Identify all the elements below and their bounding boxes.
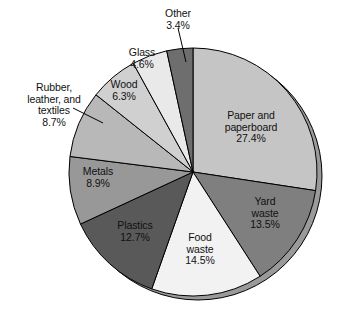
slice-label-other-name: Other xyxy=(141,8,215,20)
pie-chart: Other 3.4% Glass 4.6% Wood 6.3% Rubber, … xyxy=(0,0,343,322)
slice-label-food-value: 14.5% xyxy=(172,255,228,267)
slice-label-other-value: 3.4% xyxy=(141,20,215,32)
pie-chart-canvas xyxy=(0,0,343,322)
slice-label-plastics: Plastics 12.7% xyxy=(101,220,169,243)
slice-label-metals-value: 8.9% xyxy=(68,178,128,190)
slice-label-rubber-line1: Rubber, xyxy=(6,82,102,94)
slice-label-rubber: Rubber, leather, and textiles 8.7% xyxy=(6,82,102,128)
slice-label-paper-value: 27.4% xyxy=(209,133,293,145)
slice-label-rubber-value: 8.7% xyxy=(6,117,102,129)
slice-label-paper: Paper and paperboard 27.4% xyxy=(209,110,293,145)
slice-label-metals: Metals 8.9% xyxy=(68,166,128,189)
slice-label-plastics-name: Plastics xyxy=(101,220,169,232)
slice-label-wood-name: Wood xyxy=(95,79,153,91)
slice-label-food: Food waste 14.5% xyxy=(172,232,228,267)
slice-label-food-line1: Food xyxy=(172,232,228,244)
slice-label-rubber-line3: textiles xyxy=(6,105,102,117)
slice-label-paper-line1: Paper and xyxy=(209,110,293,122)
slice-label-other: Other 3.4% xyxy=(141,8,215,31)
slice-label-wood-value: 6.3% xyxy=(95,91,153,103)
slice-label-glass-value: 4.6% xyxy=(113,59,171,71)
slice-label-glass-name: Glass xyxy=(113,47,171,59)
slice-label-yard: Yard waste 13.5% xyxy=(239,196,291,231)
slice-label-wood: Wood 6.3% xyxy=(95,79,153,102)
slice-label-yard-line1: Yard xyxy=(239,196,291,208)
slice-label-yard-value: 13.5% xyxy=(239,219,291,231)
slice-label-metals-name: Metals xyxy=(68,166,128,178)
slice-label-glass: Glass 4.6% xyxy=(113,47,171,70)
slice-label-plastics-value: 12.7% xyxy=(101,232,169,244)
